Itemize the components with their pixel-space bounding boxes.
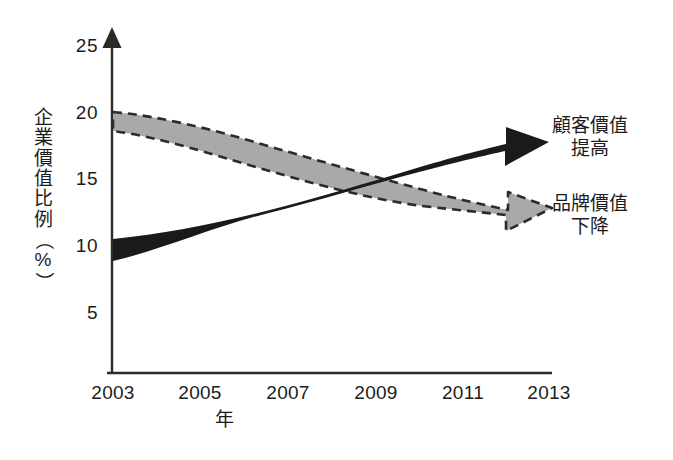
x-tick-2005: 2005 (165, 383, 235, 402)
y-axis-title-char-6: （ (33, 227, 53, 253)
x-axis-title-wrap: 年 (0, 404, 673, 431)
x-tick-2013: 2013 (514, 383, 584, 402)
chart-figure: 25 20 15 10 5 2003 2005 2007 2009 2011 2… (0, 0, 673, 460)
y-tick-15: 15 (56, 169, 98, 188)
x-axis-title: 年 (215, 409, 234, 430)
annotation-brand-value-line2: 下降 (552, 215, 628, 238)
customer-value-band-shape (113, 127, 549, 261)
x-tick-2009: 2009 (341, 383, 411, 402)
y-tick-5: 5 (56, 303, 98, 322)
x-tick-2003: 2003 (78, 383, 148, 402)
axis-group (103, 27, 553, 374)
series-customer-value-band (113, 127, 549, 261)
y-axis-title-char-4: 比 (30, 189, 56, 209)
series-brand-value-band (113, 112, 552, 231)
annotation-customer-value-line2: 提高 (552, 137, 628, 160)
y-axis-title-char-0: 企 (30, 108, 56, 128)
y-axis-title-char-3: 值 (30, 169, 56, 189)
y-axis-arrowhead (103, 27, 122, 48)
y-axis-title-char-8: ） (33, 268, 53, 294)
x-tick-2007: 2007 (253, 383, 323, 402)
annotation-customer-value: 顧客價值 提高 (552, 114, 628, 160)
x-tick-2011: 2011 (428, 383, 498, 402)
y-axis-title-char-1: 業 (30, 128, 56, 148)
y-axis-title-char-2: 價 (30, 149, 56, 169)
y-tick-10: 10 (56, 236, 98, 255)
annotation-brand-value: 品牌價值 下降 (552, 192, 628, 238)
y-tick-20: 20 (56, 103, 98, 122)
brand-value-band-shape (113, 112, 552, 231)
annotation-brand-value-line1: 品牌價值 (552, 192, 628, 215)
y-axis-title: 企 業 價 值 比 例 （ % ） (30, 108, 56, 291)
y-tick-25: 25 (56, 36, 98, 55)
annotation-customer-value-line1: 顧客價值 (552, 114, 628, 137)
